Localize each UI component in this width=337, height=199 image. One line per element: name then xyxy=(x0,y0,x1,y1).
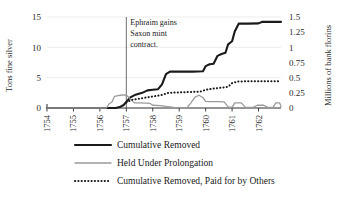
series-line xyxy=(47,95,281,108)
annotation-text: Saxon mint xyxy=(130,29,167,38)
y-tick-label: 15 xyxy=(32,12,42,22)
annotation-text: contract. xyxy=(130,40,158,49)
y-tick-label: 0 xyxy=(37,103,42,113)
x-tick-label: 1756 xyxy=(95,115,105,132)
y2-tick-label: 0.75 xyxy=(289,58,305,68)
y2-tick-label: 1 xyxy=(289,43,294,53)
y2-tick-label: 1.5 xyxy=(289,12,301,22)
y2-axis-label: Millions of bank florins xyxy=(323,25,333,106)
x-tick-label: 1761 xyxy=(227,115,237,132)
line-chart: Tons fine silverMillions of bank florins… xyxy=(0,0,337,199)
y2-tick-label: 0.5 xyxy=(289,73,301,83)
x-tick-label: 1759 xyxy=(174,115,184,132)
x-tick-label: 1754 xyxy=(42,114,52,132)
y-tick-label: 10 xyxy=(32,43,42,53)
x-tick-label: 1760 xyxy=(201,115,211,132)
legend-label: Held Under Prolongation xyxy=(117,158,213,168)
y-axis-label: Tons fine silver xyxy=(4,39,14,92)
chart-figure: Tons fine silverMillions of bank florins… xyxy=(0,0,337,199)
annotation-text: Ephraim gains xyxy=(130,18,176,27)
x-tick-label: 1755 xyxy=(68,115,78,132)
y-tick-label: 5 xyxy=(37,73,42,83)
x-tick-label: 1758 xyxy=(148,115,158,132)
x-tick-label: 1757 xyxy=(121,115,131,132)
y2-tick-label: 0.25 xyxy=(289,88,305,98)
y2-tick-label: 1.25 xyxy=(289,27,305,37)
legend-label: Cumulative Removed, Paid for by Others xyxy=(117,176,275,186)
y2-tick-label: 0 xyxy=(289,103,294,113)
legend-label: Cumulative Removed xyxy=(117,140,200,150)
x-tick-label: 1762 xyxy=(254,115,264,132)
